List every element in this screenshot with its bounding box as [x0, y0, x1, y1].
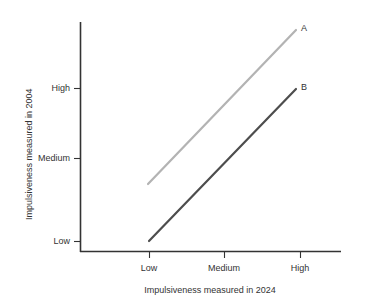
- y-tick-label-low: Low: [30, 236, 70, 246]
- x-tick-label-medium: Medium: [208, 263, 240, 273]
- series-line-a: [148, 30, 296, 184]
- series-line-b: [149, 89, 296, 241]
- x-axis-title: Impulsiveness measured in 2024: [144, 285, 276, 295]
- series-label-b: B: [301, 82, 307, 92]
- y-axis-title: Impulsiveness measured in 2004: [24, 88, 34, 220]
- series-label-a: A: [301, 23, 307, 33]
- impulsiveness-line-chart: High Medium Low Low Medium High Impulsiv…: [0, 0, 383, 306]
- x-tick-label-high: High: [291, 263, 310, 273]
- x-tick-label-low: Low: [141, 263, 158, 273]
- y-tick-label-high: High: [30, 83, 70, 93]
